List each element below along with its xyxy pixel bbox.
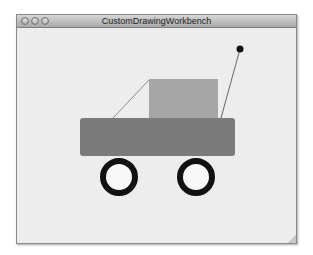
title-bar[interactable]: CustomDrawingWorkbench [17,15,296,28]
vehicle-body [80,118,235,156]
rear-wheel [180,161,212,193]
windshield-line [113,80,149,118]
window-title: CustomDrawingWorkbench [17,15,296,27]
antenna-line [221,49,240,118]
app-window: CustomDrawingWorkbench [16,14,297,244]
resize-grip[interactable] [288,235,296,243]
vehicle-cabin [149,79,218,118]
front-wheel [103,161,135,193]
drawing-canvas[interactable] [17,28,296,243]
antenna-ball [237,46,244,53]
